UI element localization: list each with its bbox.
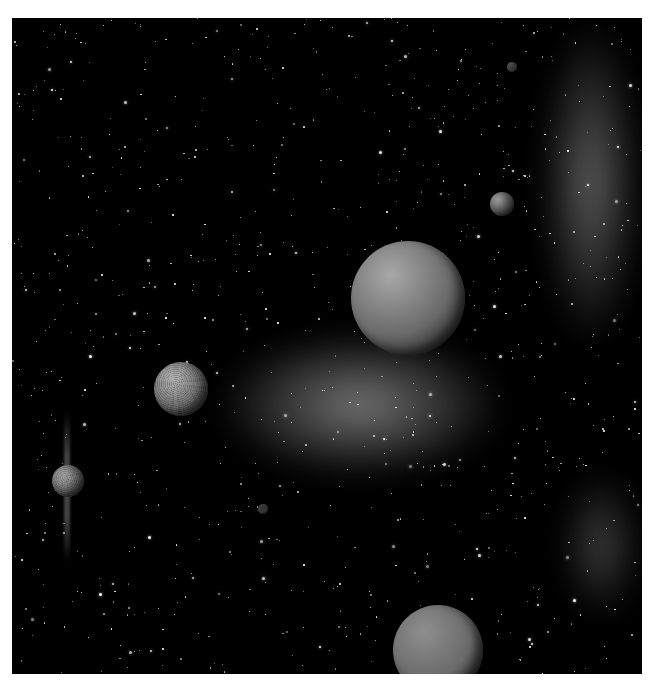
star [215, 259, 216, 260]
star [370, 594, 372, 596]
star [37, 459, 39, 461]
star [119, 224, 120, 225]
star [108, 473, 110, 475]
star [558, 467, 559, 468]
star [134, 547, 135, 548]
star [211, 364, 213, 366]
star [93, 346, 94, 347]
star [396, 201, 397, 202]
star [457, 80, 458, 81]
star [594, 236, 596, 238]
star [554, 618, 555, 619]
star [134, 474, 136, 476]
star [253, 145, 254, 146]
star [455, 594, 456, 595]
star [438, 353, 439, 354]
star [440, 193, 442, 195]
star [249, 589, 251, 591]
star [154, 286, 156, 288]
star [240, 314, 241, 315]
star [103, 25, 104, 26]
star [192, 577, 194, 579]
star [82, 175, 84, 177]
star [606, 257, 607, 258]
star [479, 83, 481, 85]
star [140, 94, 142, 96]
star [587, 184, 589, 186]
star [111, 628, 113, 630]
star [162, 665, 163, 666]
star [639, 337, 640, 338]
star [477, 235, 480, 238]
star [588, 403, 590, 405]
star [88, 196, 90, 198]
star [81, 592, 82, 593]
star [523, 356, 524, 357]
star [202, 234, 203, 235]
star [197, 18, 198, 19]
star [506, 550, 507, 551]
star [293, 199, 294, 200]
star [257, 255, 258, 256]
star [145, 62, 146, 63]
star [306, 19, 308, 21]
star [78, 233, 80, 235]
star [497, 100, 498, 101]
star [235, 510, 236, 511]
star [351, 36, 353, 38]
star [444, 106, 446, 108]
star [68, 166, 69, 167]
star [346, 636, 347, 637]
star [174, 283, 176, 285]
nebula-right-upper [540, 18, 642, 348]
star [265, 582, 267, 584]
star [389, 179, 390, 180]
star [265, 614, 266, 615]
star [568, 496, 569, 497]
star [434, 118, 435, 119]
star [387, 600, 389, 602]
star [350, 286, 351, 287]
star [524, 304, 526, 306]
star [29, 509, 31, 511]
star [593, 540, 594, 541]
star [465, 49, 466, 50]
star [354, 547, 356, 549]
star [455, 524, 456, 525]
star [418, 107, 420, 109]
star [232, 385, 234, 387]
star [547, 450, 549, 452]
star [205, 421, 206, 422]
star [15, 556, 16, 557]
star [542, 56, 544, 58]
star [464, 184, 466, 186]
star [414, 572, 416, 574]
tiny-moon-top-right [507, 62, 517, 72]
star [533, 587, 534, 588]
star [473, 108, 474, 109]
star [603, 96, 604, 97]
star [144, 612, 145, 613]
star [527, 601, 528, 602]
star [528, 638, 531, 641]
star [374, 112, 376, 114]
star [159, 186, 160, 187]
star [511, 351, 512, 352]
star [369, 477, 370, 478]
star [127, 667, 129, 669]
star [140, 26, 141, 27]
star [176, 564, 177, 565]
star [85, 343, 86, 344]
star [488, 547, 490, 549]
star [170, 263, 172, 265]
star [396, 227, 398, 229]
star [191, 573, 192, 574]
star [43, 584, 44, 585]
star [63, 304, 65, 306]
star [533, 109, 534, 110]
star [116, 473, 118, 475]
star [328, 302, 329, 303]
star [634, 401, 636, 403]
star [291, 215, 292, 216]
star [46, 467, 48, 469]
